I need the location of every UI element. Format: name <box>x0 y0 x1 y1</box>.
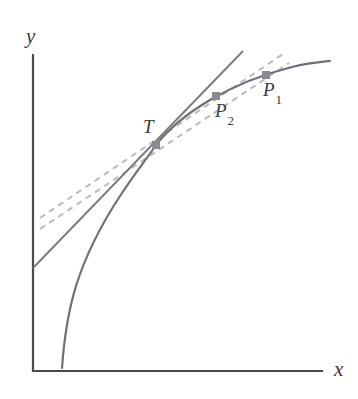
tangent-point-label: T <box>143 117 154 136</box>
point-p2-subscript: 2 <box>228 113 235 128</box>
figure-container: y x T P1 P2 <box>0 0 358 399</box>
point-p2-letter: P <box>215 100 227 121</box>
y-axis-label: y <box>26 26 35 47</box>
marker-point-p2 <box>213 93 220 100</box>
x-axis-label: x <box>334 359 343 380</box>
function-curve <box>62 61 330 368</box>
marker-point-t <box>153 142 160 149</box>
point-p1-letter: P <box>263 79 275 100</box>
point-p2-label: P2 <box>215 101 233 124</box>
secant-line-t-p1 <box>40 63 289 229</box>
figure-svg <box>0 0 358 399</box>
point-p1-subscript: 1 <box>276 92 283 107</box>
marker-point-p1 <box>263 72 270 79</box>
tangent-line-at-t <box>33 51 243 268</box>
point-p1-label: P1 <box>263 80 281 103</box>
